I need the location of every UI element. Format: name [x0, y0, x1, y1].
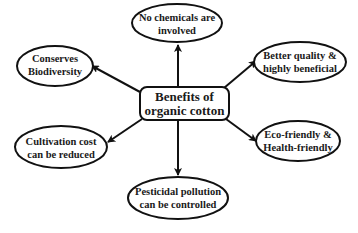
node-cultivation-cost-line-2: can be reduced	[27, 149, 95, 160]
edge-to-eco-friendly	[226, 119, 256, 141]
node-no-chemicals-line-1: No chemicals are	[139, 12, 216, 23]
benefits-of-organic-cotton-diagram: No chemicals are involved Conserves Biod…	[0, 0, 358, 233]
center-node: Benefits of organic cotton	[140, 87, 229, 120]
node-better-quality-line-2: highly beneficial	[263, 63, 337, 74]
node-cultivation-cost-line-1: Cultivation cost	[26, 136, 97, 147]
node-pesticidal-pollution: Pesticidal pollution can be controlled	[128, 177, 228, 219]
node-eco-friendly-line-1: Eco-friendly &	[264, 129, 332, 140]
node-no-chemicals-line-2: involved	[158, 25, 196, 36]
node-conserves-biodiversity: Conserves Biodiversity	[17, 46, 93, 86]
node-eco-friendly: Eco-friendly & Health-friendly	[256, 121, 340, 161]
node-pesticidal-pollution-line-2: can be controlled	[140, 199, 217, 210]
node-pesticidal-pollution-line-1: Pesticidal pollution	[135, 186, 221, 197]
edge-to-conserves-biodiversity	[92, 66, 140, 92]
node-no-chemicals: No chemicals are involved	[132, 4, 222, 42]
node-conserves-biodiversity-line-2: Biodiversity	[28, 66, 83, 77]
edge-to-better-quality	[224, 61, 256, 88]
edge-to-cultivation-cost	[108, 119, 142, 142]
node-cultivation-cost: Cultivation cost can be reduced	[15, 126, 107, 168]
node-better-quality-line-1: Better quality &	[263, 50, 337, 61]
center-node-line-1: Benefits of	[155, 89, 215, 104]
node-eco-friendly-line-2: Health-friendly	[263, 142, 333, 153]
node-better-quality: Better quality & highly beneficial	[254, 42, 346, 82]
center-node-line-2: organic cotton	[145, 103, 226, 118]
node-conserves-biodiversity-line-1: Conserves	[32, 53, 78, 64]
